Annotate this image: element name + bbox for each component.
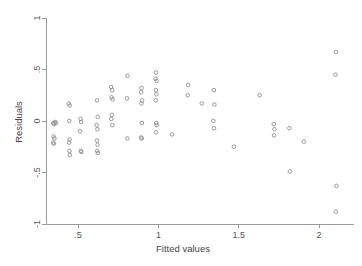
data-point: [154, 131, 158, 135]
data-point: [126, 137, 130, 141]
data-point: [95, 123, 99, 127]
y-tick-label: -1: [32, 220, 42, 228]
residuals-axis: 1.50-.5-1: [32, 15, 46, 228]
data-point: [95, 99, 99, 103]
data-point: [334, 73, 338, 77]
data-point: [96, 115, 100, 119]
data-point: [67, 119, 71, 123]
y-tick-label: 1: [32, 15, 42, 20]
data-point: [272, 134, 276, 138]
fitted-values-axis: .511.52: [46, 224, 354, 240]
data-point: [110, 113, 114, 117]
data-point: [125, 97, 129, 101]
data-point: [154, 99, 158, 103]
data-point: [258, 93, 262, 97]
x-tick-label: 1.5: [233, 230, 246, 240]
data-point: [139, 90, 143, 94]
data-point: [212, 119, 216, 123]
data-point: [335, 184, 339, 188]
data-point: [95, 139, 99, 143]
x-tick-label: 2: [317, 230, 322, 240]
data-point: [288, 170, 292, 174]
data-point: [334, 210, 338, 214]
x-tick-label: 1: [156, 230, 161, 240]
data-point: [212, 88, 216, 92]
y-tick-label: -.5: [32, 167, 42, 178]
data-point: [154, 88, 158, 92]
data-point: [78, 130, 82, 134]
data-point: [186, 93, 190, 97]
y-tick-label: 0: [32, 118, 42, 123]
data-point: [140, 86, 144, 90]
residual-scatter-plot: 1.50-.5-1 .511.52 Fitted values Residual…: [0, 0, 362, 266]
data-point: [334, 50, 338, 54]
plot-canvas: 1.50-.5-1 .511.52 Fitted values Residual…: [0, 0, 362, 266]
y-tick-label: .5: [32, 66, 42, 74]
data-point: [212, 126, 216, 130]
data-point: [140, 121, 144, 125]
data-point: [111, 123, 115, 127]
data-point: [213, 103, 217, 107]
data-point: [186, 83, 190, 87]
data-point: [96, 127, 100, 131]
data-point: [200, 102, 204, 106]
data-point: [96, 143, 100, 147]
data-point: [170, 133, 174, 137]
data-point: [154, 71, 158, 75]
data-point: [109, 117, 113, 121]
y-axis-title: Residuals: [13, 101, 24, 143]
data-point: [288, 126, 292, 130]
data-point: [68, 153, 72, 157]
data-point: [68, 149, 72, 153]
data-points-layer: [51, 50, 338, 213]
data-point: [155, 92, 159, 96]
data-point: [126, 74, 130, 78]
data-point: [272, 122, 276, 126]
x-tick-label: .5: [74, 230, 82, 240]
data-point: [302, 140, 306, 144]
x-axis-title: Fitted values: [156, 243, 210, 254]
data-point: [273, 127, 277, 131]
data-point: [232, 145, 236, 149]
